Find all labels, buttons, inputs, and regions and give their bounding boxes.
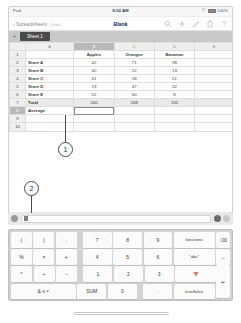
key-1[interactable]: 1: [83, 266, 112, 282]
row-header-7[interactable]: 7: [10, 99, 26, 107]
data-cell[interactable]: 132: [154, 99, 194, 107]
row-label-cell[interactable]: Store B: [26, 66, 74, 74]
data-cell[interactable]: 41: [74, 74, 114, 82]
row-label-cell[interactable]: Average: [26, 107, 74, 115]
data-cell[interactable]: [195, 107, 232, 115]
key-9[interactable]: 9: [144, 232, 173, 248]
tools-icon[interactable]: [206, 20, 214, 28]
data-cell[interactable]: [74, 123, 114, 131]
column-header-a[interactable]: A: [26, 43, 74, 51]
data-cell[interactable]: 71: [114, 58, 154, 66]
data-cell[interactable]: [195, 91, 232, 99]
key-8[interactable]: 8: [113, 232, 142, 248]
data-cell[interactable]: [195, 123, 232, 131]
key-2[interactable]: 2: [114, 266, 143, 282]
data-cell[interactable]: [195, 74, 232, 82]
row-header-3[interactable]: 3: [10, 66, 26, 74]
data-cell[interactable]: [195, 66, 232, 74]
cell-reference-icon[interactable]: [11, 215, 18, 222]
data-cell[interactable]: [195, 115, 232, 123]
data-cell[interactable]: 52: [74, 91, 114, 99]
accept-icon[interactable]: [223, 215, 230, 222]
add-sheet-button[interactable]: +: [9, 31, 20, 42]
column-header-b[interactable]: B: [74, 43, 114, 51]
row-header-2[interactable]: 2: [10, 58, 26, 66]
data-cell[interactable]: 47: [114, 82, 154, 90]
key-backspace[interactable]: ⌫: [216, 232, 230, 248]
key-5[interactable]: 5: [113, 249, 142, 265]
key-boolean[interactable]: true/false: [174, 284, 215, 300]
data-cell[interactable]: Apples: [74, 50, 114, 58]
row-label-cell[interactable]: [26, 115, 74, 123]
formula-bar[interactable]: [8, 212, 233, 225]
key-text[interactable]: "abc": [174, 249, 215, 265]
search-icon[interactable]: [164, 20, 172, 28]
data-cell[interactable]: [74, 115, 114, 123]
data-cell[interactable]: 32: [154, 82, 194, 90]
undo-button[interactable]: Undo: [50, 22, 61, 27]
data-cell[interactable]: Bananas: [154, 50, 194, 58]
data-cell[interactable]: 60: [114, 91, 154, 99]
data-cell[interactable]: 60: [74, 66, 114, 74]
row-header-1[interactable]: 1: [10, 50, 26, 58]
column-header-c[interactable]: C: [114, 43, 154, 51]
sheet-tab-sheet-1[interactable]: Sheet 1: [20, 32, 50, 41]
column-header-e[interactable]: E: [195, 43, 232, 51]
cancel-icon[interactable]: [214, 215, 221, 222]
key-comma[interactable]: ,: [56, 232, 77, 248]
row-header-5[interactable]: 5: [10, 82, 26, 90]
insert-icon[interactable]: [178, 20, 186, 28]
data-cell[interactable]: [114, 115, 154, 123]
data-cell[interactable]: [195, 99, 232, 107]
back-to-spreadsheets-button[interactable]: ‹ Spreadsheets: [13, 21, 47, 27]
key-functions[interactable]: functions: [174, 232, 215, 248]
data-cell[interactable]: [154, 123, 194, 131]
data-cell[interactable]: Oranges: [114, 50, 154, 58]
data-cell[interactable]: 42: [74, 58, 114, 66]
key-3[interactable]: 3: [145, 266, 174, 282]
data-cell[interactable]: 19: [74, 82, 114, 90]
data-cell[interactable]: 58: [114, 74, 154, 82]
key-multiply[interactable]: ×: [33, 249, 54, 265]
data-cell[interactable]: 8: [154, 91, 194, 99]
key-percent[interactable]: %: [11, 249, 32, 265]
data-cell[interactable]: 13: [154, 66, 194, 74]
column-header-d[interactable]: D: [154, 43, 194, 51]
key-4[interactable]: 4: [83, 249, 112, 265]
data-cell[interactable]: [74, 107, 114, 115]
formula-input[interactable]: [21, 215, 211, 223]
row-label-cell[interactable]: [26, 50, 74, 58]
row-label-cell[interactable]: Store C: [26, 74, 74, 82]
key-next[interactable]: →: [216, 249, 230, 265]
data-cell[interactable]: [195, 82, 232, 90]
data-cell[interactable]: 12: [114, 66, 154, 74]
key-caret[interactable]: ^: [11, 266, 32, 282]
row-header-10[interactable]: 10: [10, 123, 26, 131]
row-label-cell[interactable]: Store E: [26, 91, 74, 99]
help-icon[interactable]: [220, 20, 228, 28]
grid-corner[interactable]: [10, 43, 26, 51]
data-cell[interactable]: [154, 107, 194, 115]
key-plus[interactable]: +: [56, 249, 77, 265]
data-cell[interactable]: [154, 115, 194, 123]
key-open-paren[interactable]: (: [11, 232, 32, 248]
row-header-9[interactable]: 9: [10, 115, 26, 123]
data-cell[interactable]: 38: [154, 58, 194, 66]
data-cell[interactable]: [114, 123, 154, 131]
key-7[interactable]: 7: [83, 232, 112, 248]
key-sum[interactable]: SUM: [77, 284, 106, 300]
key-date-time[interactable]: 📅: [175, 266, 216, 282]
spreadsheet-grid[interactable]: ABCDE1ApplesOrangesBananas2Store A427138…: [9, 42, 232, 215]
key-decimal[interactable]: .: [143, 284, 172, 300]
data-cell[interactable]: 240: [74, 99, 114, 107]
row-label-cell[interactable]: Store A: [26, 58, 74, 66]
key-operators[interactable]: & ≤ ≠: [11, 284, 76, 300]
row-label-cell[interactable]: [26, 123, 74, 131]
row-header-4[interactable]: 4: [10, 74, 26, 82]
data-cell[interactable]: 248: [114, 99, 154, 107]
key-enter[interactable]: ↵: [216, 265, 230, 298]
key-6[interactable]: 6: [144, 249, 173, 265]
data-cell[interactable]: 51: [154, 74, 194, 82]
data-cell[interactable]: [114, 107, 154, 115]
key-minus[interactable]: −: [56, 266, 77, 282]
